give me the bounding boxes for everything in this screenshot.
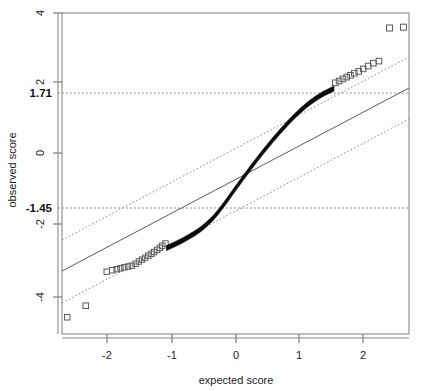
lower-threshold-label: -1.45 — [26, 202, 53, 214]
data-points-tail-low — [104, 241, 168, 275]
data-point-outlier — [401, 24, 407, 30]
lower-confidence-band — [62, 119, 409, 303]
y-tick-label--4: -4 — [34, 292, 46, 302]
data-point-outlier — [65, 315, 71, 321]
data-point — [340, 76, 346, 82]
data-points-outliers-low — [65, 303, 89, 320]
y-tick-label--2: -2 — [34, 219, 46, 229]
dense-data-band — [167, 86, 335, 251]
data-point-outlier — [387, 25, 393, 31]
x-axis-title: expected score — [199, 374, 274, 386]
data-points-tail-high — [333, 58, 382, 85]
data-point — [336, 78, 342, 84]
plot-frame — [62, 13, 409, 334]
x-tick-label--1: -1 — [167, 349, 177, 361]
y-axis-tick-labels: 4 2 0 -2 -4 — [34, 10, 46, 302]
y-axis-ticks — [53, 13, 62, 334]
data-point — [348, 73, 354, 79]
data-point — [344, 74, 350, 80]
upper-threshold-label: 1.71 — [30, 87, 53, 99]
data-point — [333, 80, 339, 86]
y-tick-label-4: 4 — [34, 10, 46, 16]
data-points-outliers-high — [387, 24, 407, 31]
x-axis-tick-labels: -2 -1 0 1 2 — [102, 349, 366, 361]
data-point — [376, 58, 382, 64]
qq-fit-line — [62, 88, 409, 271]
y-tick-label-2: 2 — [34, 79, 46, 85]
data-point — [104, 269, 109, 274]
x-tick-label--2: -2 — [102, 349, 112, 361]
y-axis-title: observed score — [6, 132, 18, 207]
data-point-outlier — [83, 303, 89, 309]
x-tick-label-1: 1 — [296, 349, 302, 361]
y-tick-label-0: 0 — [34, 150, 46, 156]
qq-plot-figure: -2 -1 0 1 2 expected score 4 2 0 -2 -4 o… — [0, 0, 428, 391]
qq-plot-canvas: -2 -1 0 1 2 expected score 4 2 0 -2 -4 o… — [0, 0, 428, 391]
x-tick-label-2: 2 — [360, 349, 366, 361]
x-axis-ticks — [62, 334, 409, 343]
x-tick-label-0: 0 — [233, 349, 239, 361]
threshold-annotations: 1.71 -1.45 — [26, 87, 409, 214]
upper-confidence-band — [62, 57, 409, 240]
